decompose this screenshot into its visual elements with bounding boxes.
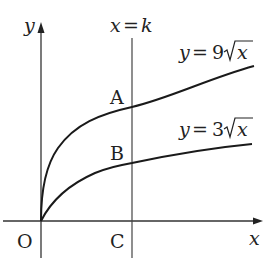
- svg-text:k: k: [141, 14, 153, 36]
- svg-text:3: 3: [212, 118, 224, 140]
- origin-label: O: [17, 230, 33, 252]
- point-a-label: A: [109, 86, 124, 108]
- y-axis: [38, 22, 45, 258]
- curve-label-9-sqrt-x: y = 9 x: [178, 41, 253, 63]
- x-axis-arrow-icon: [253, 218, 263, 225]
- svg-text:=: =: [192, 118, 208, 140]
- svg-text:=: =: [123, 14, 139, 36]
- point-c-label: C: [110, 230, 125, 252]
- curve-label-3-sqrt-x: y = 3 x: [178, 118, 253, 140]
- vertical-line-label: x = k: [110, 14, 153, 36]
- svg-text:=: =: [192, 41, 208, 63]
- svg-text:x: x: [110, 14, 121, 36]
- svg-text:y: y: [178, 118, 190, 140]
- svg-text:x: x: [237, 41, 248, 63]
- point-b-label: B: [110, 142, 124, 164]
- x-axis-label: x: [249, 227, 260, 249]
- curve-y-9-sqrt-x: [41, 66, 254, 221]
- function-graph-diagram: y x O C A B x = k y = 9 x y = 3 x: [0, 0, 269, 275]
- curve-y-3-sqrt-x: [41, 144, 252, 221]
- svg-text:y: y: [178, 41, 190, 63]
- y-axis-label: y: [23, 14, 35, 36]
- svg-text:x: x: [237, 118, 248, 140]
- svg-text:9: 9: [212, 41, 224, 63]
- y-axis-arrow-icon: [38, 22, 45, 33]
